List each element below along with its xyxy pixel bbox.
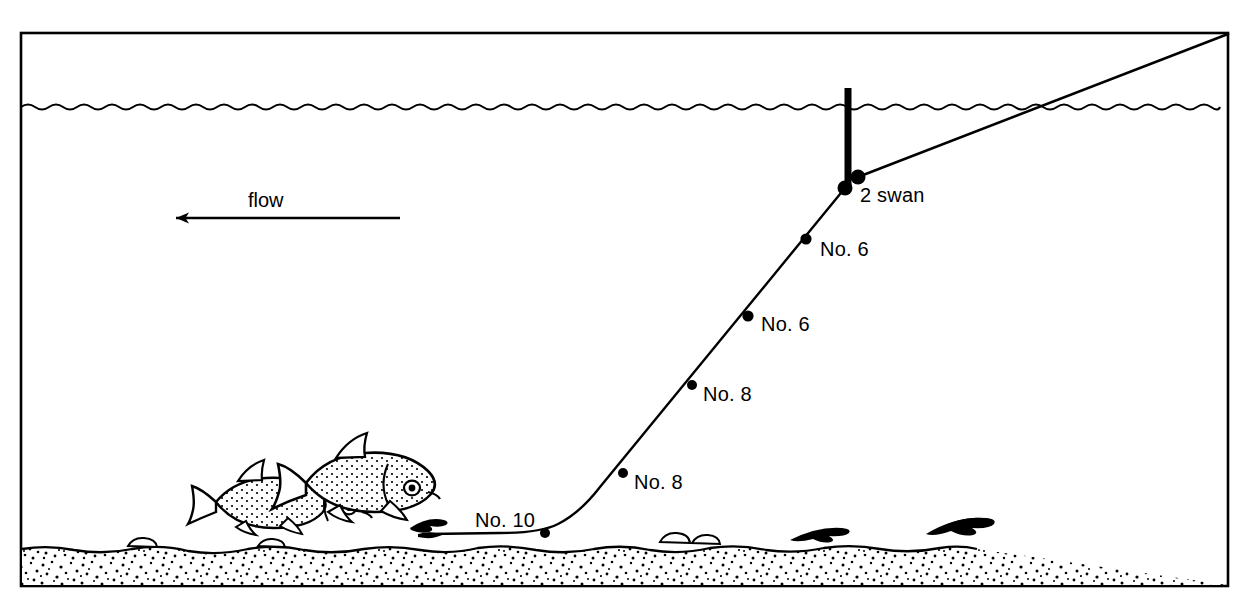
shot-label-no6-upper: No. 6 <box>820 238 869 260</box>
shot-label-no8-lower: No. 8 <box>634 471 683 493</box>
shot-dot-no6-upper <box>800 233 811 244</box>
flow-arrow-label: flow <box>248 189 284 211</box>
shot-dot-no8-upper <box>687 380 697 390</box>
shot-dot-anchor <box>851 170 866 185</box>
shot-label-no10: No. 10 <box>475 509 535 531</box>
shot-dot-no8-lower <box>618 468 628 478</box>
shot-dot-2-swan <box>838 181 853 196</box>
shot-dot-no6-lower <box>742 310 753 321</box>
fish-large-pupil <box>409 485 416 492</box>
shot-label-no6-lower: No. 6 <box>761 313 810 335</box>
float-tip <box>846 88 850 110</box>
fishing-diagram: 2 swan No. 6 No. 6 No. 8 No. 8 No. 10 fl… <box>0 0 1251 608</box>
shot-dot-no10 <box>540 528 550 538</box>
shot-label-no8-upper: No. 8 <box>703 383 752 405</box>
shot-label-2-swan: 2 swan <box>860 184 925 206</box>
scene-svg: 2 swan No. 6 No. 6 No. 8 No. 8 No. 10 fl… <box>0 0 1251 608</box>
